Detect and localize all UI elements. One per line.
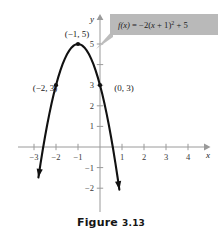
left-point-label: (−2, 3) xyxy=(33,83,58,93)
y-axis-label: y xyxy=(89,14,94,24)
y-tick-label: 5 xyxy=(90,39,94,49)
figure-caption-number: 3.13 xyxy=(122,218,145,228)
eq-equals: = xyxy=(130,20,139,30)
eq-coefficient: −2( xyxy=(139,20,151,30)
y-tick-label: −2 xyxy=(85,183,94,193)
eq-tail: + 5 xyxy=(174,20,187,30)
x-tick-label: 4 xyxy=(186,152,191,162)
y-tick-label: 1 xyxy=(90,121,94,131)
equation-text: f(x) = −2(x + 1)2 + 5 xyxy=(118,20,188,30)
y-tick-label: 2 xyxy=(90,101,94,111)
graph-canvas: −3−2−11234 5321−1−2 x y (−1, 5) (−2, 3) … xyxy=(0,0,222,237)
figure-container: −3−2−11234 5321−1−2 x y (−1, 5) (−2, 3) … xyxy=(0,0,222,237)
eq-inner-rest: + 1) xyxy=(155,20,171,30)
figure-caption: Figure 3.13 xyxy=(0,216,222,229)
x-axis-label: x xyxy=(205,150,210,160)
point-marker-group xyxy=(54,42,102,87)
x-tick-label: −1 xyxy=(73,152,82,162)
equation-callout: f(x) = −2(x + 1)2 + 5 xyxy=(96,14,218,49)
curve-right-arrowhead xyxy=(115,181,121,190)
data-point-marker xyxy=(98,83,102,87)
y-axis-arrowhead xyxy=(97,14,104,20)
x-tick-label: −2 xyxy=(51,152,60,162)
figure-caption-word: Figure xyxy=(77,216,118,229)
axis-group xyxy=(18,14,211,212)
x-tick-label: 3 xyxy=(164,152,168,162)
data-point-marker xyxy=(76,42,80,46)
vertex-point-label: (−1, 5) xyxy=(65,29,90,39)
x-tick-label: 1 xyxy=(120,152,124,162)
y-intercept-point-label: (0, 3) xyxy=(114,83,134,93)
x-tick-label: 2 xyxy=(142,152,146,162)
y-tick-label: 3 xyxy=(90,80,94,90)
parabola-curve xyxy=(38,44,119,190)
parabola-group xyxy=(37,44,122,190)
eq-fn-arg: (x) xyxy=(120,20,130,30)
x-tick-label: −3 xyxy=(29,152,38,162)
y-tick-label: −1 xyxy=(85,163,94,173)
